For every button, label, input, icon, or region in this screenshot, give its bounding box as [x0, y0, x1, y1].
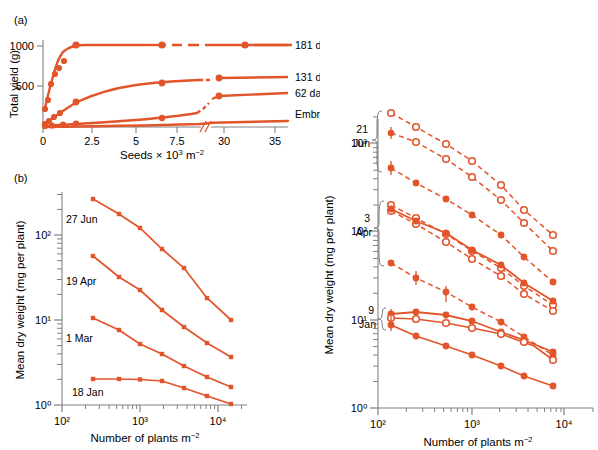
- panel-b-left-x-ticklabel-1e2: 10²: [54, 415, 70, 427]
- panel-a-series-label-62days: 62 days: [295, 87, 320, 99]
- panel-b-left-x-axis-title: Number of plants m−2: [91, 431, 200, 444]
- panel-a-series-label-131days: 131 days: [295, 71, 320, 83]
- panel-b-right-group-label-21jun-line2: Jun: [353, 137, 370, 149]
- panel-b-right-y-axis-title: Mean dry weight (mg per plant): [323, 195, 335, 354]
- panel-b-right: 10⁰ 10¹ 10² 10³ 10² 10³ 10⁴ Mean dry wei…: [298, 105, 598, 450]
- panel-a-label: (a): [14, 14, 27, 26]
- panel-b-right-points-21jun-open-b: [413, 139, 557, 255]
- panel-b-right-y-major-ticks: [370, 143, 378, 408]
- panel-b-right-x-title-main: Number of plants m: [424, 436, 524, 448]
- panel-b-left-y-axis-title: Mean dry weight (mg per plant): [14, 220, 26, 379]
- panel-b-right-x-axis-title: Number of plants m−2: [424, 435, 533, 448]
- panel-b-left-y-ticklabel-1e1: 10¹: [35, 314, 51, 326]
- panel-b-left-y-ticklabel-1e2: 10²: [35, 229, 51, 241]
- panel-b-left-curve-27jun: [93, 199, 231, 320]
- panel-b-right-y-ticklabel-1e0: 10⁰: [351, 402, 368, 414]
- panel-a-x-axis-title: Seeds × 103 m−2: [120, 148, 204, 160]
- panel-b-left-x-ticklabel-1e3: 10³: [132, 415, 148, 427]
- panel-b-left-x-title-main: Number of plants m: [91, 432, 191, 444]
- panel-b-right-x-minor-ticks: [406, 408, 593, 412]
- panel-b-right-group-label-3apr-line2: Apr: [356, 226, 373, 238]
- panel-b-left-y-ticklabel-1e0: 10⁰: [35, 399, 52, 411]
- panel-b-right-x-title-sup: −2: [524, 435, 533, 444]
- panel-a-x-ticklabel-5: 5: [133, 135, 139, 147]
- panel-b-right-x-ticklabel-1e3: 10³: [464, 418, 480, 430]
- panel-a-x-ticklabel-2p5: 2.5: [84, 135, 99, 147]
- panel-b-left-series-label-1mar: 1 Mar: [66, 332, 93, 344]
- panel-a-x-ticklabel-30: 30: [218, 135, 230, 147]
- panel-b-left: (b) 10⁰ 10¹ 10² 10² 10³ 10⁴: [0, 160, 300, 450]
- panel-b-right-x-ticklabel-1e2: 10²: [370, 418, 386, 430]
- panel-a-curve-181days-left: [45, 45, 140, 108]
- figure-root: (a) 1000 500 0 2.5 5 7.5 30 35 Total yie…: [0, 0, 598, 450]
- panel-b-right-group-label-21jun-line1: 21: [356, 123, 368, 135]
- panel-a-x-ticklabel-0: 0: [40, 135, 46, 147]
- panel-a-x-ticklabel-7p5: 7.5: [169, 135, 184, 147]
- panel-a-curve-131days-right: [216, 77, 288, 79]
- panel-a-curve-62days-right: [212, 93, 288, 99]
- panel-b-label: (b): [14, 172, 27, 184]
- panel-b-left-x-title-sup: −2: [191, 431, 200, 440]
- panel-a-y-axis-title: Total yield (g): [8, 50, 20, 119]
- panel-b-left-points-18jan: [91, 377, 233, 406]
- panel-a-curve-62days-break: [197, 103, 209, 113]
- panel-b-left-series-label-18jan: 18 Jan: [72, 386, 104, 398]
- panel-b-left-curve-19apr: [93, 256, 231, 357]
- panel-b-right-group-label-3apr-line1: 3: [364, 212, 370, 224]
- panel-a: (a) 1000 500 0 2.5 5 7.5 30 35 Total yie…: [0, 0, 320, 160]
- panel-b-left-y-minor-ticks: [57, 195, 62, 380]
- panel-a-series-label-181days: 181 days: [295, 39, 320, 51]
- panel-a-x-title-main: Seeds × 10: [120, 149, 179, 160]
- panel-a-x-ticklabel-35: 35: [269, 135, 281, 147]
- panel-a-curve-131days-break: [199, 79, 213, 80]
- panel-b-right-group-label-9jan-line2: Jan: [359, 318, 376, 330]
- panel-b-left-series-label-19apr: 19 Apr: [66, 275, 97, 287]
- panel-a-curve-131days-left: [45, 80, 199, 124]
- panel-b-left-series-label-27jun: 27 Jun: [66, 213, 98, 225]
- panel-b-right-x-ticklabel-1e4: 10⁴: [556, 418, 573, 430]
- panel-b-right-curve-21jun-open-b: [391, 133, 553, 251]
- panel-b-right-brace-3apr: [374, 201, 384, 266]
- panel-b-right-brace-9jan: [378, 308, 386, 330]
- panel-a-x-title-sup2: m: [186, 149, 196, 160]
- panel-a-x-title-sup3: −2: [195, 148, 204, 157]
- panel-b-left-x-ticklabel-1e4: 10⁴: [210, 415, 227, 427]
- panel-b-left-points-19apr: [91, 254, 233, 359]
- panel-b-right-group-label-9jan-line1: 9: [368, 304, 374, 316]
